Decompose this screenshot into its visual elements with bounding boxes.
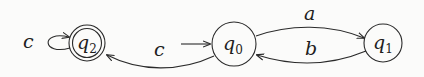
transition-q2-self-loop: c [23, 30, 70, 52]
state-q0-label: q0 [223, 32, 243, 57]
state-q0: q0 [212, 22, 256, 66]
state-q2-label: q2 [77, 31, 97, 56]
transition-q0-to-q2: c [107, 38, 214, 68]
self-loop-label: c [23, 30, 34, 52]
self-loop-arrow [48, 36, 70, 50]
edge-q1-q0-label: b [305, 37, 317, 59]
transition-q1-to-q0: b [257, 37, 366, 63]
automaton-diagram: q2 c q0 c q1 a [0, 0, 424, 77]
edge-q0-q2-label: c [154, 38, 165, 60]
state-q1: q1 [364, 24, 402, 62]
edge-q0-q1-label: a [304, 2, 315, 24]
transition-q0-to-q1: a [256, 2, 364, 38]
state-q2: q2 [69, 25, 105, 61]
automaton-svg: q2 c q0 c q1 a [0, 0, 424, 77]
state-q1-label: q1 [373, 31, 393, 56]
